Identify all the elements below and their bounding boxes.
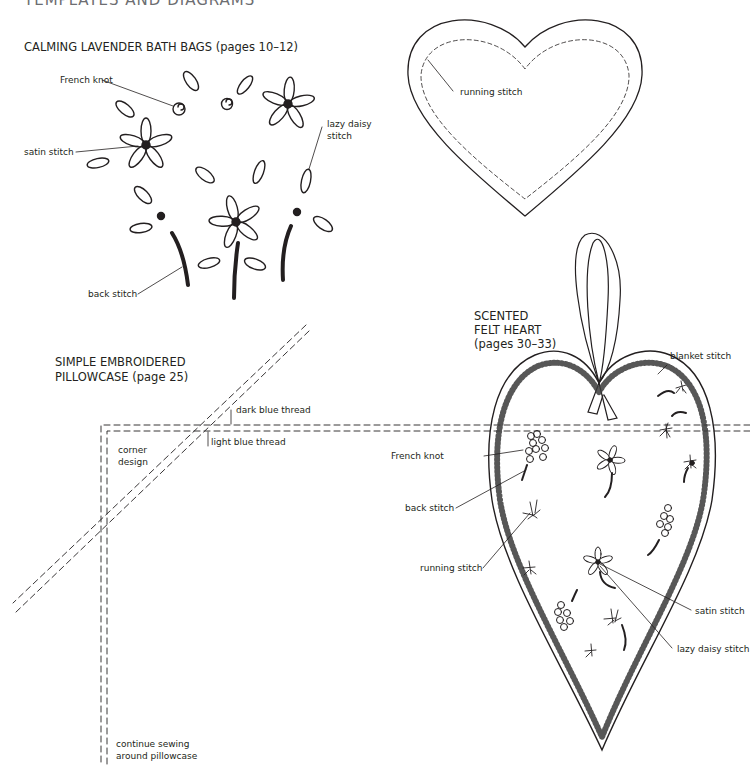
- label-running-stitch-heart: running stitch: [460, 86, 523, 98]
- felt-heart-illustration: [489, 233, 716, 750]
- label-continue-line1: continue sewing: [116, 738, 190, 750]
- label-lazy-daisy-line2: stitch: [327, 130, 352, 142]
- diagram-artwork: [0, 0, 750, 783]
- felt-heart-leaders: [456, 365, 691, 648]
- label-dark-blue-thread: dark blue thread: [236, 404, 311, 416]
- starburst-6: [604, 609, 621, 625]
- bath-bags-illustration: [86, 69, 335, 298]
- starburst-4: [523, 500, 540, 519]
- label-lazy-daisy-stitch-heart: lazy daisy stitch: [677, 643, 749, 655]
- label-back-stitch-heart: back stitch: [405, 502, 454, 514]
- label-satin-stitch-heart: satin stitch: [695, 605, 745, 617]
- french-knot-cluster-1: [526, 431, 549, 463]
- label-lazy-daisy-line1: lazy daisy: [327, 118, 372, 130]
- label-back-stitch: back stitch: [88, 288, 137, 300]
- starburst-7: [585, 644, 596, 657]
- label-blanket-stitch: blanket stitch: [670, 350, 731, 362]
- label-satin-stitch: satin stitch: [24, 146, 74, 158]
- bath-bags-leaders: [76, 80, 322, 294]
- label-french-knot-heart: French knot: [391, 450, 444, 462]
- heart-template: [408, 20, 642, 216]
- french-knot-cluster-3: [555, 602, 574, 631]
- french-knot-cluster-2: [657, 505, 674, 537]
- label-running-stitch-felt: running stitch: [420, 562, 483, 574]
- label-continue-line2: around pillowcase: [116, 750, 197, 762]
- label-corner-line2: design: [118, 456, 148, 468]
- label-corner-line1: corner: [118, 444, 147, 456]
- pillowcase-diagram: [13, 325, 750, 764]
- label-light-blue-thread: light blue thread: [211, 436, 286, 448]
- label-french-knot: French knot: [60, 74, 113, 86]
